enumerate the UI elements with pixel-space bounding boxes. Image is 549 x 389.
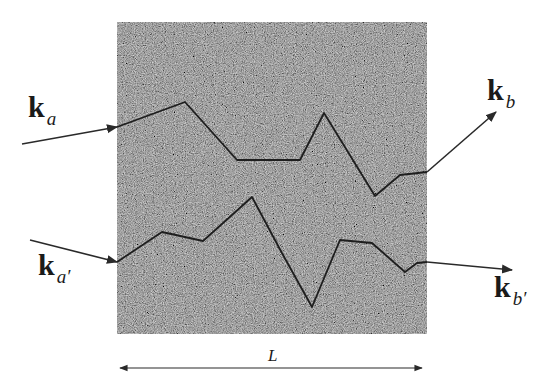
k-b-base: k: [487, 73, 504, 106]
incoming-arrow-a: [22, 127, 117, 144]
k-a-base: k: [28, 90, 45, 123]
k-b-prime-base: k: [494, 270, 511, 303]
label-length: L: [268, 346, 277, 366]
label-k-a-prime: ka′: [38, 250, 70, 284]
label-k-a: ka: [28, 92, 56, 126]
k-b-sub: b: [506, 91, 516, 112]
outgoing-arrow-b-prime: [427, 262, 512, 270]
k-a-prime-sub: a′: [57, 266, 71, 287]
label-k-b: kb: [487, 75, 515, 109]
label-k-b-prime: kb′: [494, 272, 526, 306]
outgoing-arrow-b: [427, 112, 496, 172]
k-b-prime-sub: b′: [513, 288, 527, 309]
medium-noise-texture: [117, 22, 427, 334]
scattering-diagram: ka kb ka′ kb′ L: [0, 0, 549, 389]
diagram-canvas: [0, 0, 549, 389]
k-a-sub: a: [47, 108, 57, 129]
k-a-prime-base: k: [38, 248, 55, 281]
